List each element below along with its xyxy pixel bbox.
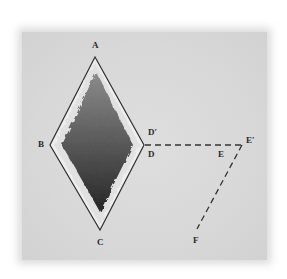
- rhombus-inner-region: [62, 72, 133, 212]
- label-a: A: [92, 41, 99, 50]
- label-b: B: [38, 140, 44, 149]
- label-e: E: [218, 150, 224, 159]
- label-f: F: [193, 236, 199, 245]
- label-c: C: [97, 238, 104, 247]
- label-e-prime: E′: [246, 136, 255, 145]
- label-d-prime: D′: [148, 128, 157, 137]
- label-d: D: [148, 150, 155, 159]
